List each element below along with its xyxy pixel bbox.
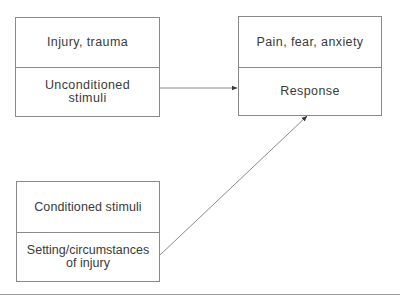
response-box-label: Response — [239, 68, 381, 115]
conditioned-box-title: Conditioned stimuli — [17, 182, 159, 232]
conditioned-stimulus-box: Conditioned stimuli Setting/circumstance… — [16, 181, 160, 282]
response-box-title: Pain, fear, anxiety — [239, 17, 381, 67]
unconditioned-box-title: Injury, trauma — [16, 18, 159, 67]
arrow-conditioned-to-response — [160, 116, 307, 255]
response-box: Pain, fear, anxiety Response — [238, 16, 382, 116]
unconditioned-box-label: Unconditioned stimuli — [16, 68, 159, 116]
bottom-rule — [0, 294, 400, 295]
unconditioned-stimulus-box: Injury, trauma Unconditioned stimuli — [15, 17, 160, 117]
conditioned-box-label: Setting/circumstances of injury — [17, 233, 159, 281]
